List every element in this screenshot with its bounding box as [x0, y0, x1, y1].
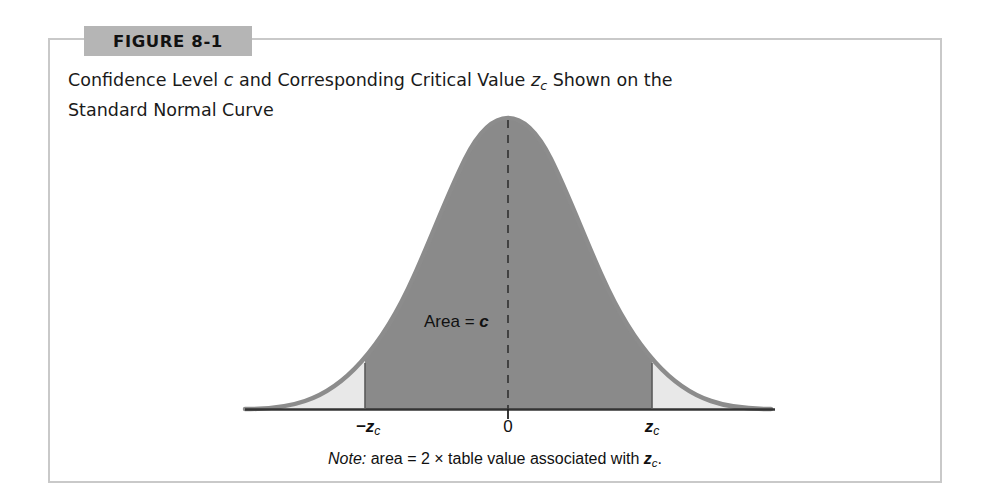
figure-container: FIGURE 8-1 Confidence Level c and Corres… [0, 0, 995, 498]
note-times-symbol: × [434, 450, 443, 467]
note-keyword: Note: [328, 450, 366, 467]
axis-tick-negative-zc: −zc [322, 417, 414, 438]
area-label: Area = c [424, 312, 489, 332]
note-critical-symbol: z [644, 450, 652, 467]
caption-line-two: Standard Normal Curve [68, 100, 274, 120]
figure-note: Note: area = 2 × table value associated … [48, 450, 942, 469]
caption-confidence-symbol: c [224, 70, 234, 90]
axis-tick-negative-zc-subscript: c [374, 424, 380, 438]
caption-text-pre: Confidence Level [68, 70, 224, 90]
caption-critical-symbol: z [531, 70, 540, 90]
caption-text-mid: and Corresponding Critical Value [233, 70, 531, 90]
area-label-value: c [479, 312, 488, 331]
figure-caption: Confidence Level c and Corresponding Cri… [68, 68, 768, 123]
axis-tick-negative-zc-label: −z [356, 417, 374, 436]
axis-tick-zero-label: 0 [503, 417, 512, 436]
note-text-mid: table value associated with [444, 450, 644, 467]
area-label-text: Area = [424, 312, 479, 331]
figure-number-tag: FIGURE 8-1 [84, 26, 252, 56]
caption-text-post: Shown on the [547, 70, 673, 90]
note-period: . [658, 450, 662, 467]
figure-number-label: FIGURE 8-1 [113, 32, 223, 51]
note-text-pre: area = 2 [366, 450, 434, 467]
axis-tick-zero: 0 [470, 417, 546, 437]
axis-tick-positive-zc: zc [610, 417, 694, 438]
axis-tick-positive-zc-label: z [645, 417, 654, 436]
axis-tick-positive-zc-subscript: c [653, 424, 659, 438]
